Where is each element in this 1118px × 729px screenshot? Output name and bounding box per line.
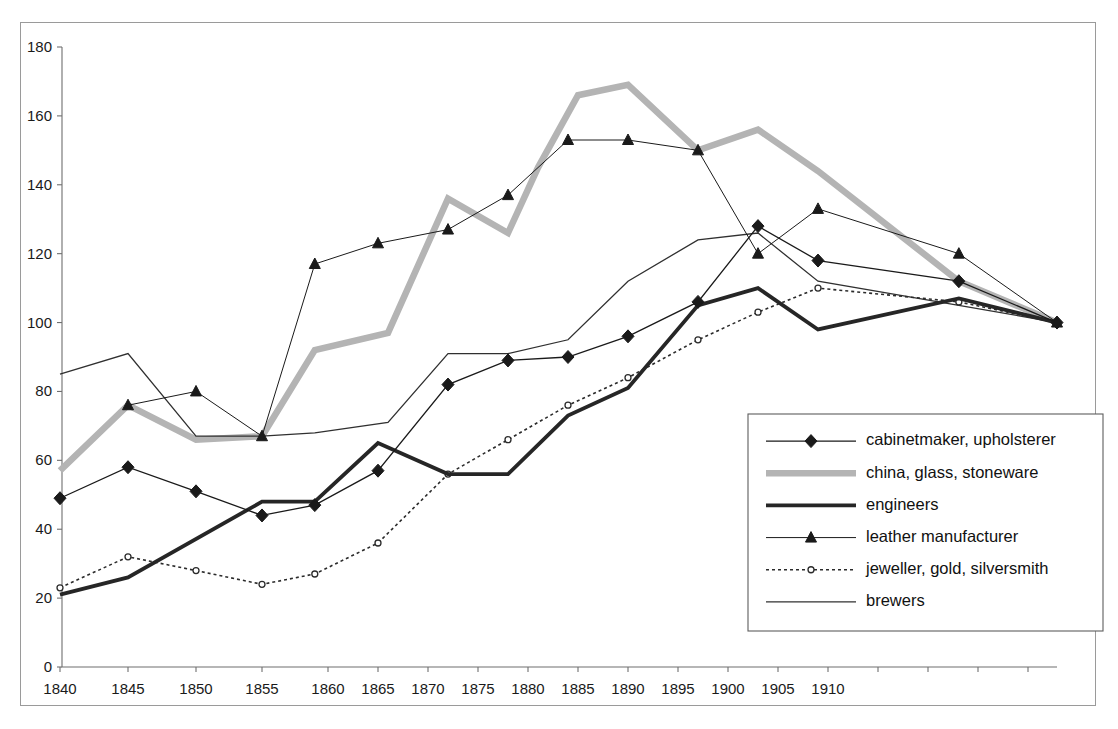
data-point-marker bbox=[812, 254, 824, 267]
x-tick-label: 1885 bbox=[561, 680, 594, 697]
legend-label: cabinetmaker, upholsterer bbox=[866, 430, 1056, 448]
y-tick-label: 40 bbox=[35, 520, 52, 537]
data-point-marker bbox=[191, 385, 202, 396]
y-tick-label: 140 bbox=[27, 176, 52, 193]
y-tick-label: 120 bbox=[27, 245, 52, 262]
data-point-marker bbox=[193, 568, 199, 574]
data-point-marker bbox=[695, 337, 701, 343]
legend-label: leather manufacturer bbox=[866, 527, 1019, 545]
x-tick-label: 1880 bbox=[511, 680, 544, 697]
data-point-marker bbox=[563, 134, 574, 145]
y-tick-label: 180 bbox=[27, 38, 52, 55]
data-point-marker bbox=[753, 248, 764, 258]
y-tick-label: 160 bbox=[27, 107, 52, 124]
chart-figure: 0204060801001201401601801840184518501855… bbox=[0, 0, 1118, 729]
data-point-marker bbox=[190, 485, 202, 498]
legend-label: jeweller, gold, silversmith bbox=[865, 559, 1048, 577]
data-point-marker bbox=[808, 567, 814, 573]
data-point-marker bbox=[503, 189, 514, 200]
data-point-marker bbox=[625, 375, 631, 381]
x-tick-label: 1910 bbox=[811, 680, 844, 697]
y-tick-label: 100 bbox=[27, 314, 52, 331]
data-point-marker bbox=[256, 509, 268, 522]
data-point-marker bbox=[54, 492, 66, 505]
data-point-marker bbox=[562, 351, 574, 364]
data-point-marker bbox=[622, 330, 634, 343]
data-point-marker bbox=[755, 309, 761, 315]
data-point-marker bbox=[57, 585, 63, 591]
x-tick-label: 1905 bbox=[761, 680, 794, 697]
series-line bbox=[60, 85, 1057, 471]
data-point-marker bbox=[443, 224, 454, 235]
x-tick-label: 1845 bbox=[111, 680, 144, 697]
y-tick-label: 60 bbox=[35, 451, 52, 468]
y-tick-label: 0 bbox=[44, 658, 52, 675]
x-tick-label: 1860 bbox=[311, 680, 344, 697]
series-brewers bbox=[60, 233, 1057, 436]
data-point-marker bbox=[815, 285, 821, 291]
data-point-marker bbox=[259, 581, 265, 587]
x-tick-label: 1865 bbox=[361, 680, 394, 697]
data-point-marker bbox=[505, 437, 511, 443]
data-point-marker bbox=[375, 540, 381, 546]
legend-label: china, glass, stoneware bbox=[866, 463, 1038, 481]
x-tick-label: 1900 bbox=[711, 680, 744, 697]
legend-label: brewers bbox=[866, 591, 925, 609]
legend: cabinetmaker, upholstererchina, glass, s… bbox=[748, 414, 1103, 631]
x-tick-label: 1870 bbox=[411, 680, 444, 697]
data-point-marker bbox=[623, 134, 634, 145]
y-tick-label: 20 bbox=[35, 589, 52, 606]
series-leather-manufacturer bbox=[123, 134, 1063, 441]
data-point-marker bbox=[125, 554, 131, 560]
x-tick-label: 1890 bbox=[611, 680, 644, 697]
series-line bbox=[60, 233, 1057, 436]
x-tick-label: 1850 bbox=[179, 680, 212, 697]
x-tick-label: 1895 bbox=[661, 680, 694, 697]
data-point-marker bbox=[565, 402, 571, 408]
y-tick-label: 80 bbox=[35, 382, 52, 399]
data-point-marker bbox=[502, 354, 514, 367]
data-point-marker bbox=[122, 461, 134, 474]
series-line bbox=[128, 140, 1057, 436]
series-china-glass-stoneware bbox=[60, 85, 1057, 471]
x-tick-label: 1875 bbox=[461, 680, 494, 697]
x-tick-label: 1855 bbox=[245, 680, 278, 697]
data-point-marker bbox=[312, 571, 318, 577]
line-chart-canvas: 0204060801001201401601801840184518501855… bbox=[0, 0, 1118, 729]
legend-label: engineers bbox=[866, 495, 938, 513]
x-tick-label: 1840 bbox=[43, 680, 76, 697]
data-point-marker bbox=[813, 203, 824, 214]
